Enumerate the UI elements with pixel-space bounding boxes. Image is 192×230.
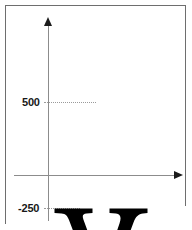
x-axis-line <box>14 175 176 176</box>
tick-leader-upper <box>44 102 96 103</box>
x-axis-arrow-icon <box>174 171 183 179</box>
font-metrics-figure: 500 -250 <box>0 0 192 230</box>
tick-label-lower: -250 <box>18 203 39 214</box>
y-axis-arrow-icon <box>44 17 52 26</box>
tick-label-upper: 500 <box>22 97 40 108</box>
figure-frame-left <box>5 5 6 224</box>
figure-frame-right <box>185 5 186 206</box>
figure-frame-top <box>5 5 186 6</box>
specimen-glyph-y <box>52 208 152 230</box>
y-axis-line <box>48 24 49 221</box>
